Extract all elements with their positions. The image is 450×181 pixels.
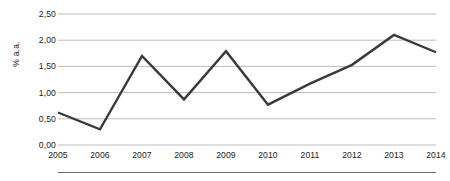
series-lines xyxy=(58,35,436,129)
x-axis-tick-label: 2011 xyxy=(291,150,329,161)
x-axis-tick-label: 2008 xyxy=(165,150,203,161)
x-axis-tick-label: 2009 xyxy=(207,150,245,161)
bottom-divider xyxy=(58,172,436,173)
series-line xyxy=(58,35,436,129)
x-axis-tick-label: 2006 xyxy=(81,150,119,161)
x-axis-tick-label: 2005 xyxy=(39,150,77,161)
x-axis-tick-label: 2012 xyxy=(333,150,371,161)
x-axis-tick-label: 2010 xyxy=(249,150,287,161)
x-axis-tick-label: 2013 xyxy=(375,150,413,161)
x-axis-tick-label: 2007 xyxy=(123,150,161,161)
x-axis-tick-label: 2014 xyxy=(417,150,450,161)
